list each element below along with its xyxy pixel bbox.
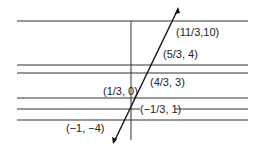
point-label: (−1/3, 1)	[140, 103, 181, 115]
point-label: (4/3, 3)	[150, 76, 185, 88]
point-label: (5/3, 4)	[163, 48, 198, 60]
diagram: (11/3,10) (5/3, 4) (4/3, 3) (1/3, 0) (−1…	[0, 0, 262, 154]
point-label: (−1, −4)	[66, 122, 105, 134]
point-label: (1/3, 0)	[103, 85, 138, 97]
graph-lines	[0, 0, 262, 154]
point-label: (11/3,10)	[176, 26, 219, 38]
